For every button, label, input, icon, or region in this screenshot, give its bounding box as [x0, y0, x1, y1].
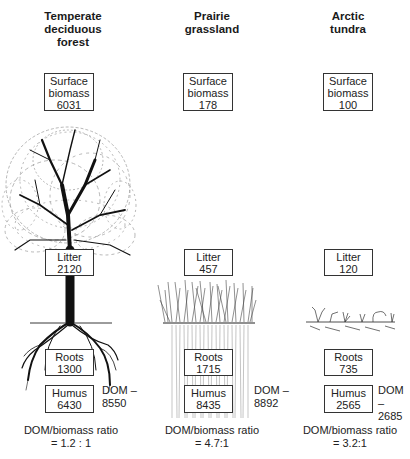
title-line: tundra: [288, 23, 408, 36]
box-label: Humus: [46, 387, 93, 399]
box-label: Humus: [325, 387, 372, 399]
box-label: Litter: [185, 251, 232, 263]
grassland-roots-box: Roots 1715: [184, 349, 233, 376]
dom-value: 2685: [378, 410, 410, 423]
tree-trunk-icon: [15, 130, 130, 322]
grassland-surface-biomass-box: Surface biomass 178: [183, 73, 233, 111]
title-line: deciduous: [13, 23, 133, 36]
box-value: 457: [185, 263, 232, 275]
box-value: 735: [325, 363, 372, 375]
box-value: 178: [184, 99, 232, 111]
tundra-dom-label: DOM – 2685: [378, 384, 410, 423]
box-value: 120: [325, 263, 372, 275]
title-line: Temperate: [13, 10, 133, 23]
box-label: Litter: [325, 251, 372, 263]
ratio-value: = 3.2:1: [280, 437, 410, 450]
ratio-label: DOM/biomass ratio: [280, 424, 410, 437]
forest-dom-label: DOM – 8550: [102, 384, 137, 410]
box-value: 100: [324, 99, 372, 111]
forest-litter-box: Litter 2120: [45, 249, 94, 276]
box-label: Roots: [325, 351, 372, 363]
dom-label: DOM –: [102, 384, 137, 397]
box-value: 2120: [46, 263, 93, 275]
box-label: Litter: [46, 251, 93, 263]
tundra-ratio: DOM/biomass ratio = 3.2:1: [280, 424, 410, 450]
ratio-value: = 1.2 : 1: [1, 437, 141, 450]
box-label: Humus: [185, 387, 232, 399]
forest-roots-box: Roots 1300: [45, 349, 94, 376]
tundra-plants-icon: [310, 307, 395, 331]
box-label: biomass: [184, 87, 232, 99]
title-line: Prairie: [152, 10, 272, 23]
box-label: biomass: [324, 87, 372, 99]
box-label: Surface: [324, 75, 372, 87]
forest-ratio: DOM/biomass ratio = 1.2 : 1: [1, 424, 141, 450]
prairie-grass-icon: [158, 280, 256, 322]
grassland-humus-box: Humus 8435: [184, 385, 233, 413]
dom-label: DOM –: [254, 384, 289, 397]
dom-value: 8892: [254, 397, 289, 410]
tundra-surface-biomass-box: Surface biomass 100: [323, 73, 373, 111]
forest-surface-biomass-box: Surface biomass 6031: [44, 73, 94, 111]
dom-value: 8550: [102, 397, 137, 410]
box-value: 2565: [325, 399, 372, 411]
title-line: forest: [13, 36, 133, 49]
box-value: 6430: [46, 399, 93, 411]
box-label: Surface: [45, 75, 93, 87]
ratio-value: = 4.7:1: [142, 437, 282, 450]
forest-title: Temperate deciduous forest: [13, 10, 133, 49]
box-label: biomass: [45, 87, 93, 99]
grassland-ratio: DOM/biomass ratio = 4.7:1: [142, 424, 282, 450]
tundra-humus-box: Humus 2565: [324, 385, 373, 413]
ratio-label: DOM/biomass ratio: [1, 424, 141, 437]
forest-humus-box: Humus 6430: [45, 385, 94, 413]
box-value: 1715: [185, 363, 232, 375]
box-value: 6031: [45, 99, 93, 111]
box-label: Roots: [46, 351, 93, 363]
dom-label: DOM –: [378, 384, 410, 410]
grassland-dom-label: DOM – 8892: [254, 384, 289, 410]
box-value: 8435: [185, 399, 232, 411]
grassland-litter-box: Litter 457: [184, 249, 233, 276]
ratio-label: DOM/biomass ratio: [142, 424, 282, 437]
tundra-litter-box: Litter 120: [324, 249, 373, 276]
tundra-roots-box: Roots 735: [324, 349, 373, 376]
box-label: Surface: [184, 75, 232, 87]
grassland-title: Prairie grassland: [152, 10, 272, 36]
box-label: Roots: [185, 351, 232, 363]
box-value: 1300: [46, 363, 93, 375]
title-line: grassland: [152, 23, 272, 36]
title-line: Arctic: [288, 10, 408, 23]
tundra-title: Arctic tundra: [288, 10, 408, 36]
